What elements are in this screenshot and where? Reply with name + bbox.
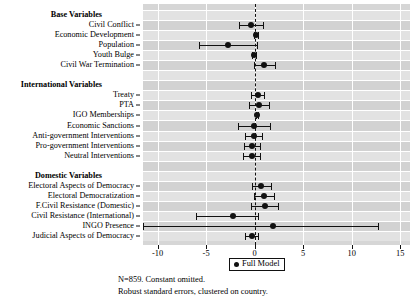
row-band [143,231,410,241]
vertical-gridline [352,4,353,245]
footnote-line-2: Robust standard errors, clustered on cou… [118,286,268,298]
confidence-interval-cap-high [378,223,379,230]
row-band [143,80,410,90]
confidence-interval-cap-low [254,62,255,69]
x-axis-tick-label: 10 [348,250,356,258]
horizontal-gridline [143,20,410,21]
row-band [143,120,410,130]
horizontal-gridline [143,80,410,81]
y-axis-tick [136,185,140,186]
y-axis-tick [136,25,140,26]
x-axis-tick-label: -5 [203,250,210,258]
y-axis-tick [136,65,140,66]
y-axis-tick-label: Treaty [113,91,134,99]
y-axis-tick [136,45,140,46]
confidence-interval-cap-high [271,183,272,190]
confidence-interval-cap-high [264,92,265,99]
confidence-interval-cap-high [263,22,264,29]
x-axis-tick-label: 5 [301,250,305,258]
row-band [143,100,410,110]
confidence-interval-cap-low [238,123,239,130]
row-band [143,211,410,221]
confidence-interval-cap-high [258,233,259,240]
row-band [143,60,410,70]
confidence-interval-cap-low [196,213,197,220]
row-band [143,70,410,80]
vertical-gridline [158,4,159,245]
y-axis-tick [136,95,140,96]
horizontal-gridline [143,40,410,41]
horizontal-gridline [143,201,410,202]
y-axis-tick [136,105,140,106]
y-axis-tick-label: Civil War Termination [60,61,134,69]
y-axis-tick [136,145,140,146]
y-axis-tick-label: IGO Memberships [73,111,134,119]
y-axis-tick [136,215,140,216]
row-band [143,141,410,151]
y-axis-tick-label: Electoral Democratization [48,192,134,200]
confidence-interval-cap-high [275,62,276,69]
y-axis-tick-label: Civil Resistance (International) [31,212,134,220]
point-estimate-marker [230,213,236,219]
y-axis-tick-label: Electoral Aspects of Democracy [28,182,134,190]
confidence-interval-cap-high [274,193,275,200]
confidence-interval-cap-high [257,42,258,49]
y-axis-tick-label: Economic Sanctions [67,121,134,129]
y-axis-tick [136,55,140,56]
confidence-interval-cap-low [199,42,200,49]
horizontal-gridline [143,181,410,182]
y-axis-tick-label: Pro-government Interventions [36,141,134,149]
confidence-interval-cap-high [269,102,270,109]
horizontal-gridline [143,231,410,232]
row-band [143,50,410,60]
y-axis-tick [136,115,140,116]
confidence-interval-line [196,216,257,217]
confidence-interval-cap-low [245,233,246,240]
confidence-interval-cap-high [270,123,271,130]
y-axis-tick [136,195,140,196]
confidence-interval-cap-low [254,193,255,200]
y-axis-tick-label: Population [99,41,134,49]
row-band [143,161,410,171]
y-axis-tick-label: INGO Presence [82,222,134,230]
legend-marker-icon [234,262,239,267]
y-axis-group-header: International Variables [21,81,102,89]
row-band [143,171,410,181]
y-axis-tick-label: Youth Bulge [93,51,134,59]
confidence-interval-cap-high [278,203,279,210]
legend-label: Full Model [242,260,279,268]
confidence-interval-line [143,226,378,227]
point-estimate-marker [251,123,257,129]
row-band [143,30,410,40]
row-band [143,90,410,100]
coefficient-plot-figure: Base VariablesCivil ConflictEconomic Dev… [0,0,418,303]
confidence-interval-cap-high [260,153,261,160]
x-axis-tick-label: 15 [396,250,404,258]
confidence-interval-cap-low [251,92,252,99]
row-band [143,20,410,30]
horizontal-gridline [143,191,410,192]
y-axis-tick [136,235,140,236]
confidence-interval-cap-low [251,203,252,210]
confidence-interval-cap-low [249,102,250,109]
horizontal-gridline [143,151,410,152]
horizontal-gridline [143,10,410,11]
row-band [143,131,410,141]
y-axis-tick-label: PTA [119,101,134,109]
y-axis-tick [136,35,140,36]
point-estimate-marker [270,223,276,229]
row-band [143,10,410,20]
horizontal-gridline [143,110,410,111]
legend: Full Model [229,258,285,271]
row-band [143,110,410,120]
point-estimate-marker [251,133,257,139]
y-axis-tick-label: F.Civil Resistance (Domestic) [36,202,134,210]
row-band [143,181,410,191]
confidence-interval-cap-low [243,153,244,160]
x-axis-tick-label: -10 [152,250,163,258]
y-axis-group-header: Base Variables [51,11,102,19]
confidence-interval-cap-low [244,143,245,150]
horizontal-gridline [143,120,410,121]
horizontal-gridline [143,131,410,132]
horizontal-gridline [143,171,410,172]
